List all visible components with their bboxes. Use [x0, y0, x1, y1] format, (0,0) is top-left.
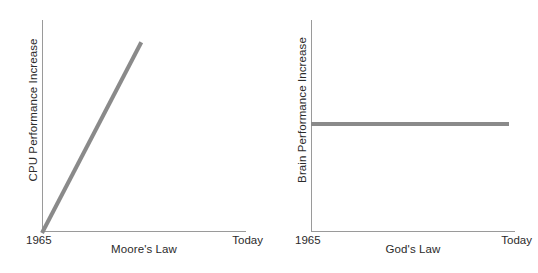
y-axis-label-left: CPU Performance Increase — [27, 15, 39, 205]
x-axis-tick-start-left: 1965 — [26, 234, 52, 246]
y-axis-line-right — [311, 20, 312, 232]
x-axis-tick-start-right: 1965 — [295, 234, 321, 246]
y-axis-line-left — [42, 20, 43, 232]
two-panel-chart-figure: CPU Performance Increase Moore's Law 196… — [0, 0, 538, 273]
chart-panel-gods-law: Brain Performance Increase God's Law 196… — [269, 0, 538, 273]
y-axis-label-right: Brain Performance Increase — [296, 15, 308, 205]
x-axis-line-right — [311, 231, 515, 232]
data-series-line-brain-performance — [311, 122, 509, 126]
chart-panel-moores-law: CPU Performance Increase Moore's Law 196… — [0, 0, 269, 273]
x-axis-tick-end-right: Today — [480, 234, 532, 246]
x-axis-tick-end-left: Today — [211, 234, 263, 246]
data-series-line-cpu-performance — [40, 41, 143, 234]
x-axis-line-left — [42, 231, 246, 232]
